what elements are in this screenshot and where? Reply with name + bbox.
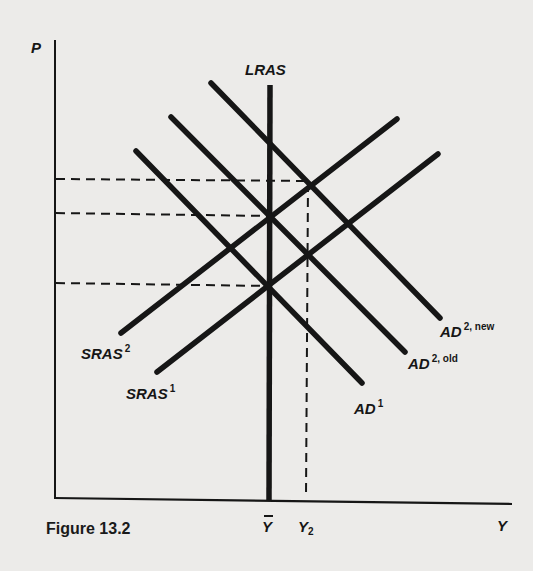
output-line-y2: [306, 183, 308, 497]
x-tick-y2-main: Y: [298, 518, 308, 535]
sras1-label-text: SRAS: [126, 385, 168, 402]
ad2-old-curve: [171, 117, 405, 352]
x-axis: [54, 498, 512, 504]
price-line-bottom: [56, 283, 269, 286]
sras2-label-text: SRAS: [81, 345, 123, 362]
ad1-label-sup: 1: [378, 398, 384, 409]
price-line-middle: [56, 213, 269, 216]
ad2-new-label-text: AD: [440, 323, 462, 340]
ad1-curve: [136, 151, 362, 383]
sras1-label: SRAS1: [126, 384, 175, 401]
ad2-new-curve: [211, 83, 440, 318]
figure-13-2: P Y LRAS SRAS2 SRAS1 AD1 AD2, old AD2, n…: [0, 0, 533, 571]
ad2-old-label: AD2, old: [408, 354, 458, 371]
overbar: [264, 515, 273, 517]
sras2-label-sup: 2: [125, 343, 131, 354]
ad2-new-label-sup: 2, new: [464, 321, 495, 332]
ad1-label-text: AD: [354, 400, 376, 417]
ad2-old-label-sup: 2, old: [432, 353, 458, 364]
lras-curve: [269, 85, 270, 501]
x-tick-y2-sub: 2: [308, 526, 314, 537]
figure-caption: Figure 13.2: [46, 521, 130, 537]
x-tick-ybar: Y: [262, 519, 272, 534]
x-tick-y2: Y2: [298, 519, 314, 537]
ad2-old-label-text: AD: [408, 355, 430, 372]
sras2-label: SRAS2: [81, 344, 130, 361]
x-tick-ybar-text: Y: [262, 518, 272, 535]
x-axis-label: Y: [497, 518, 507, 533]
sras1-label-sup: 1: [170, 383, 176, 394]
ad1-label: AD1: [354, 399, 383, 416]
y-axis-label: P: [31, 40, 41, 55]
ad-as-diagram: [0, 0, 533, 571]
ad2-new-label: AD2, new: [440, 322, 494, 339]
lras-label: LRAS: [245, 62, 286, 77]
